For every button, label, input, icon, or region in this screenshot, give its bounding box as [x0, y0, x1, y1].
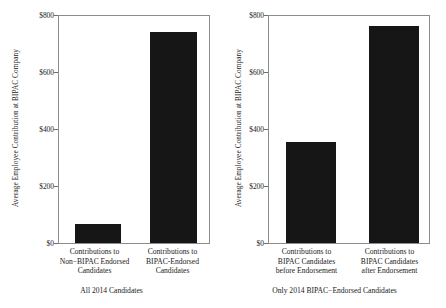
y-tick-label-600: $600 — [28, 69, 54, 77]
x-category-label-after-endorsement: Contributions to BIPAC Candidates after … — [349, 247, 430, 276]
y-tick-label-400: $400 — [238, 126, 264, 134]
bar-non-bipac-endorsed — [75, 224, 121, 243]
x-category-label-before-endorsement: Contributions to BIPAC Candidates before… — [266, 247, 347, 276]
y-tick-label-200: $200 — [238, 183, 264, 191]
y-axis-title: Average Employee Contribution at BIPAC C… — [9, 12, 23, 244]
chart-panel-bipac-endorsed-only: Average Employee Contribution at BIPAC C… — [223, 0, 446, 308]
y-tick-label-600: $600 — [238, 69, 264, 77]
bar-bipac-endorsed — [150, 32, 197, 243]
y-tick-label-0: $0 — [28, 240, 54, 248]
x-category-label-bipac: Contributions to BIPAC-Endorsed Candidat… — [134, 247, 211, 276]
two-panel-bar-chart-figure: Average Employee Contribution at BIPAC C… — [0, 0, 446, 308]
chart-panel-all-candidates: Average Employee Contribution at BIPAC C… — [0, 0, 223, 308]
bar-after-endorsement — [369, 26, 419, 243]
plot-area — [268, 15, 430, 244]
plot-area — [58, 15, 210, 244]
panel-caption: Only 2014 BIPAC−Endorsed Candidates — [223, 286, 446, 296]
y-tick-label-0: $0 — [238, 240, 264, 248]
y-tick-label-800: $800 — [28, 12, 54, 20]
panel-caption: All 2014 Candidates — [0, 286, 223, 296]
x-category-label-non-bipac: Contributions to Non−BIPAC Endorsed Cand… — [56, 247, 133, 276]
y-tick-label-800: $800 — [238, 12, 264, 20]
y-tick-label-400: $400 — [28, 126, 54, 134]
bar-before-endorsement — [286, 142, 336, 243]
y-tick-label-200: $200 — [28, 183, 54, 191]
